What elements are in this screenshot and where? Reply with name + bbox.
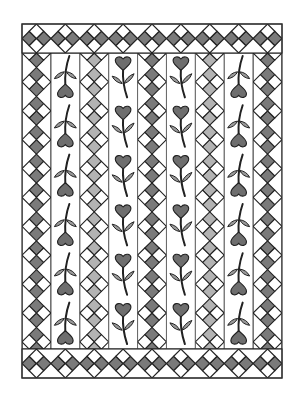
top-border-band — [22, 24, 282, 53]
column-2-hearts — [51, 53, 80, 349]
column-7-diamonds — [195, 39, 224, 386]
column-4-hearts — [109, 53, 138, 349]
column-8-hearts — [224, 53, 253, 349]
column-1-diamonds — [22, 39, 51, 386]
quilt-canvas — [0, 0, 299, 396]
column-9-diamonds — [253, 39, 282, 386]
bottom-border-band — [22, 349, 282, 378]
quilt-columns — [22, 39, 282, 386]
column-6-hearts — [166, 53, 195, 349]
column-5-diamonds — [138, 39, 167, 386]
column-3-diamonds — [80, 39, 109, 386]
